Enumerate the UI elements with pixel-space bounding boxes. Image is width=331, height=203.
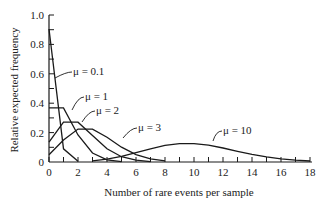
y-tick-label: 0.6 xyxy=(30,68,44,80)
curve-0-1 xyxy=(49,29,78,161)
x-tick-label: 14 xyxy=(247,166,259,178)
curve-label: μ = 10 xyxy=(223,124,252,136)
x-axis-title: Number of rare events per sample xyxy=(104,186,253,198)
x-tick-label: 4 xyxy=(104,166,110,178)
x-tick-label: 16 xyxy=(276,166,288,178)
y-tick-label: 0.2 xyxy=(30,127,44,139)
leader-line xyxy=(123,128,137,138)
curve-3 xyxy=(49,129,165,161)
y-tick-label: 0.4 xyxy=(30,97,44,109)
curve-label: μ = 0.1 xyxy=(73,65,104,77)
x-tick-labels: 024681012141618 xyxy=(46,166,316,178)
x-tick-label: 2 xyxy=(75,166,81,178)
y-tick-label: 0.8 xyxy=(30,38,44,50)
y-tick-labels: 00.20.40.60.81.0 xyxy=(30,9,44,168)
x-tick-label: 8 xyxy=(162,166,168,178)
x-tick-label: 18 xyxy=(305,166,317,178)
leader-line xyxy=(72,97,84,110)
axis-ticks xyxy=(49,15,310,162)
x-tick-label: 6 xyxy=(133,166,139,178)
x-tick-label: 0 xyxy=(46,166,52,178)
poisson-chart: 024681012141618 00.20.40.60.81.0 μ = 0.1… xyxy=(0,0,331,203)
curve-10 xyxy=(93,144,311,161)
y-tick-label: 1.0 xyxy=(30,9,44,21)
curve-label: μ = 3 xyxy=(138,121,162,133)
y-tick-label: 0 xyxy=(39,156,45,168)
curve-label: μ = 1 xyxy=(85,90,108,102)
axes xyxy=(49,15,312,162)
x-tick-label: 10 xyxy=(189,166,201,178)
x-tick-label: 12 xyxy=(218,166,229,178)
leader-line xyxy=(213,131,222,141)
curve-label: μ = 2 xyxy=(96,104,119,116)
y-axis-title: Relative expected frequency xyxy=(8,27,20,153)
leader-line xyxy=(55,72,72,78)
leader-line xyxy=(82,111,95,122)
